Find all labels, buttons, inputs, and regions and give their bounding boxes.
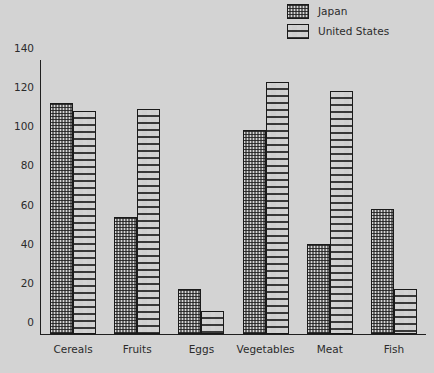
legend-item-united-states: United States	[287, 24, 389, 39]
bar-eggs-japan	[178, 289, 201, 334]
y-axis-tick-label: 20	[21, 277, 34, 289]
y-axis-tick-label: 0	[27, 316, 34, 328]
x-axis-tick-label: Fruits	[123, 343, 152, 355]
bar-cereals-united-states	[73, 111, 96, 334]
y-axis-tick-label: 140	[14, 42, 34, 54]
bar-chart: Japan United States 020406080100120140Ce…	[0, 0, 434, 373]
y-axis-tick-label: 100	[14, 120, 34, 132]
legend-label-united-states: United States	[318, 24, 389, 39]
x-axis-tick-label: Meat	[317, 343, 343, 355]
chart-legend: Japan United States	[287, 4, 389, 39]
plot-area: 020406080100120140CerealsFruitsEggsVeget…	[40, 60, 426, 335]
united-states-swatch-icon	[287, 24, 309, 39]
legend-item-japan: Japan	[287, 4, 389, 19]
bar-fruits-japan	[114, 217, 137, 334]
bar-group: Vegetables	[243, 60, 289, 334]
bar-cereals-japan	[50, 103, 73, 334]
bar-group: Meat	[307, 60, 353, 334]
bar-vegetables-japan	[243, 130, 266, 334]
bar-fruits-united-states	[137, 109, 160, 334]
bar-group: Fish	[371, 60, 417, 334]
x-axis-tick-label: Cereals	[53, 343, 92, 355]
japan-swatch-icon	[287, 4, 309, 19]
bar-group: Cereals	[50, 60, 96, 334]
x-axis-tick-label: Fish	[384, 343, 404, 355]
bar-fish-united-states	[394, 289, 417, 334]
bar-vegetables-united-states	[266, 82, 289, 334]
bar-meat-japan	[307, 244, 330, 334]
y-axis-tick-label: 80	[21, 159, 34, 171]
y-axis-tick-label: 60	[21, 199, 34, 211]
bar-meat-united-states	[330, 91, 353, 334]
x-axis-tick-label: Eggs	[189, 343, 214, 355]
y-axis-tick-label: 40	[21, 238, 34, 250]
bar-group: Fruits	[114, 60, 160, 334]
bar-fish-japan	[371, 209, 394, 334]
bar-eggs-united-states	[201, 311, 224, 334]
legend-label-japan: Japan	[318, 4, 347, 19]
bar-group: Eggs	[178, 60, 224, 334]
y-axis-tick-label: 120	[14, 81, 34, 93]
x-axis-tick-label: Vegetables	[237, 343, 295, 355]
